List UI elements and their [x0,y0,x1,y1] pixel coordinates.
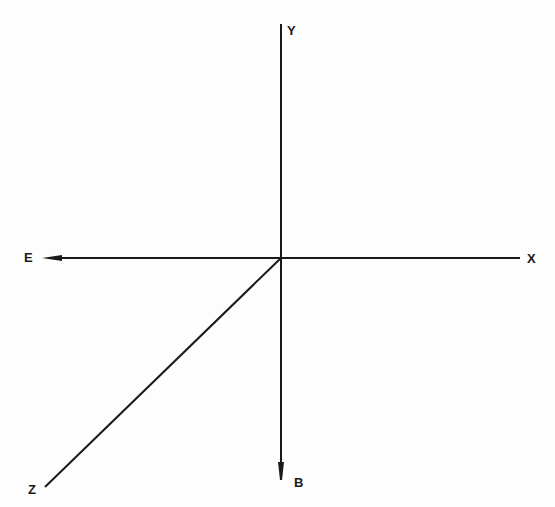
b-arrowhead-icon [278,462,284,480]
z-axis-line [45,258,281,487]
e-axis-label: E [24,251,33,264]
x-axis-label: X [527,252,536,265]
z-axis-label: Z [28,483,36,496]
y-axis-label: Y [287,24,296,37]
b-axis-label: B [294,476,303,489]
axes-diagram: Y B E X Z [0,0,555,507]
axes-drawing [0,0,555,507]
e-arrowhead-icon [42,255,62,261]
